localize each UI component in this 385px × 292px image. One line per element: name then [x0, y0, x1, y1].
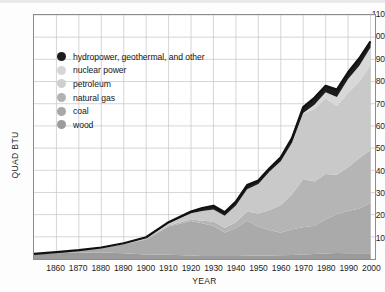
x-tick-1860: 1860	[46, 263, 65, 273]
legend-item-natural-gas[interactable]: natural gas	[57, 91, 205, 105]
legend-label-nuclear-power: nuclear power	[73, 65, 126, 75]
legend-label-petroleum: petroleum	[73, 79, 111, 89]
x-tick-1890: 1890	[114, 263, 133, 273]
x-tick-1950: 1950	[249, 263, 268, 273]
y-axis-label: QUAD BTU	[10, 110, 20, 200]
legend-label-coal: coal	[73, 106, 89, 116]
legend-swatch-coal	[57, 107, 66, 116]
legend-item-petroleum[interactable]: petroleum	[57, 77, 205, 91]
x-tick-1930: 1930	[204, 263, 223, 273]
legend-item-nuclear-power[interactable]: nuclear power	[57, 64, 205, 78]
legend-swatch-hydropower	[57, 52, 66, 61]
x-tick-1940: 1940	[227, 263, 246, 273]
x-tick-1960: 1960	[272, 263, 291, 273]
top-edge-strip	[0, 0, 385, 3]
legend-label-wood: wood	[73, 120, 93, 130]
x-tick-1980: 1980	[317, 263, 336, 273]
x-tick-1970: 1970	[294, 263, 313, 273]
chart-legend: hydropower, geothermal, and other nuclea…	[57, 50, 205, 132]
legend-item-wood[interactable]: wood	[57, 118, 205, 132]
energy-consumption-area-chart: 110 100 90 80 70 60 50 40 30 20 10 QUAD …	[0, 0, 385, 292]
x-tick-1870: 1870	[69, 263, 88, 273]
x-tick-2000: 2000	[362, 263, 381, 273]
legend-swatch-petroleum	[57, 79, 66, 88]
x-tick-1910: 1910	[159, 263, 178, 273]
x-tick-1900: 1900	[137, 263, 156, 273]
legend-label-natural-gas: natural gas	[73, 93, 115, 103]
x-tick-1990: 1990	[339, 263, 358, 273]
legend-swatch-natural-gas	[57, 93, 66, 102]
x-tick-1920: 1920	[182, 263, 201, 273]
legend-swatch-nuclear-power	[57, 66, 66, 75]
x-tick-1880: 1880	[91, 263, 110, 273]
legend-label-hydropower: hydropower, geothermal, and other	[73, 52, 205, 62]
x-axis-label: YEAR	[33, 276, 376, 286]
legend-item-coal[interactable]: coal	[57, 104, 205, 118]
legend-swatch-wood	[57, 120, 66, 129]
legend-item-hydropower[interactable]: hydropower, geothermal, and other	[57, 50, 205, 64]
